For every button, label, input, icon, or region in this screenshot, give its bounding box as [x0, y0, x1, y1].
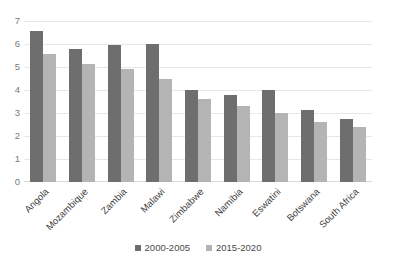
- y-axis-tick: 4: [0, 85, 20, 95]
- bar-group: [217, 21, 256, 182]
- bar-groups: [24, 21, 372, 182]
- legend-swatch-icon: [135, 245, 141, 251]
- bar-group: [179, 21, 218, 182]
- y-axis-tick: 1: [0, 154, 20, 164]
- bar-1[interactable]: [108, 45, 121, 182]
- x-axis-label: Malawi: [138, 186, 167, 215]
- y-axis: 01234567: [0, 21, 20, 182]
- y-axis-tick: 5: [0, 62, 20, 72]
- bar-chart: 01234567 AngolaMozambiqueZambiaMalawiZim…: [0, 0, 396, 270]
- bar-1[interactable]: [30, 31, 43, 182]
- legend-swatch-icon: [206, 245, 212, 251]
- bar-group: [333, 21, 372, 182]
- bar-group: [24, 21, 63, 182]
- x-axis-category: South Africa: [333, 184, 372, 240]
- bar-group: [140, 21, 179, 182]
- x-axis-category: Zimbabwe: [179, 184, 218, 240]
- bar-2[interactable]: [121, 69, 134, 182]
- y-axis-tick: 7: [0, 16, 20, 26]
- legend-label: 2015-2020: [216, 243, 261, 253]
- bar-2[interactable]: [159, 79, 172, 183]
- bar-group: [101, 21, 140, 182]
- bar-group: [295, 21, 334, 182]
- chart-legend: 2000-20052015-2020: [0, 243, 396, 253]
- y-axis-tick: 0: [0, 177, 20, 187]
- bar-1[interactable]: [146, 44, 159, 182]
- x-axis-category: Mozambique: [63, 184, 102, 240]
- y-axis-tick: 6: [0, 39, 20, 49]
- legend-item[interactable]: 2015-2020: [206, 243, 261, 253]
- plot-area: [24, 21, 372, 182]
- bar-1[interactable]: [185, 90, 198, 182]
- x-axis-label: Namibia: [212, 186, 244, 218]
- bar-group: [256, 21, 295, 182]
- bar-2[interactable]: [198, 99, 211, 182]
- bar-2[interactable]: [82, 64, 95, 182]
- y-axis-tick: 2: [0, 131, 20, 141]
- bar-2[interactable]: [353, 127, 366, 182]
- x-axis-label: Zambia: [98, 186, 128, 216]
- bar-2[interactable]: [43, 54, 56, 182]
- x-axis-label: Angola: [22, 186, 51, 215]
- bar-2[interactable]: [314, 122, 327, 182]
- bar-1[interactable]: [301, 110, 314, 182]
- x-axis-label: Eswatini: [250, 186, 283, 219]
- bar-1[interactable]: [340, 119, 353, 182]
- x-axis-category: Zambia: [101, 184, 140, 240]
- legend-item[interactable]: 2000-2005: [135, 243, 190, 253]
- bar-2[interactable]: [275, 113, 288, 182]
- legend-label: 2000-2005: [145, 243, 190, 253]
- y-axis-tick: 3: [0, 108, 20, 118]
- bar-1[interactable]: [224, 95, 237, 182]
- bar-1[interactable]: [262, 90, 275, 182]
- x-axis: AngolaMozambiqueZambiaMalawiZimbabweNami…: [24, 184, 372, 240]
- bar-group: [63, 21, 102, 182]
- bar-1[interactable]: [69, 49, 82, 182]
- bar-2[interactable]: [237, 106, 250, 182]
